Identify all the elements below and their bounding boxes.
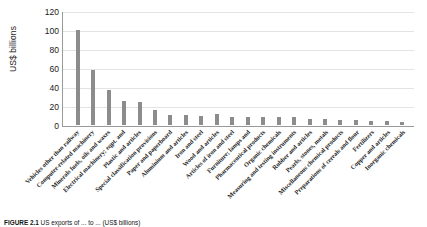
bar-slot [379, 12, 394, 125]
bar-slot [101, 12, 116, 125]
bar-slot [116, 12, 131, 125]
bar [199, 116, 203, 125]
bar-slot [286, 12, 301, 125]
figure-caption-text: US exports of ... to ... (US$ billions) [41, 219, 141, 226]
bar-slot [147, 12, 162, 125]
bar-slot [163, 12, 178, 125]
bar [230, 117, 234, 125]
y-axis-title: US$ billions [8, 26, 22, 72]
bar-slot [348, 12, 363, 125]
bar [153, 110, 157, 125]
bar-slot [395, 12, 410, 125]
bar [76, 30, 80, 125]
figure-chart: US$ billions 020406080100120 Vehicles ot… [0, 0, 427, 227]
bar [400, 122, 404, 125]
bar [308, 119, 312, 125]
bar-slot [225, 12, 240, 125]
bar [138, 102, 142, 125]
y-axis-tick-label: 80 [50, 46, 59, 55]
figure-caption-label: FIGURE 2.1 [4, 219, 39, 226]
bar-slot [271, 12, 286, 125]
bar [385, 121, 389, 125]
bar-slot [194, 12, 209, 125]
y-axis-tick-label: 60 [50, 65, 59, 74]
y-axis-tick-label: 40 [50, 84, 59, 93]
bar [91, 70, 95, 125]
bar-slot [333, 12, 348, 125]
bar [184, 115, 188, 125]
plot-frame: 020406080100120 [62, 12, 414, 127]
bar [323, 119, 327, 125]
y-axis-tick-label: 20 [50, 103, 59, 112]
bar-slot [364, 12, 379, 125]
bar-slot [317, 12, 332, 125]
bar [261, 117, 265, 125]
bar-slot [255, 12, 270, 125]
bar [122, 101, 126, 125]
bar-slot [85, 12, 100, 125]
bar-slot [240, 12, 255, 125]
plot-area: 020406080100120 [62, 12, 414, 127]
bar-slot [70, 12, 85, 125]
bar [292, 117, 296, 125]
y-axis-tick-label: 100 [45, 27, 59, 36]
bar-slot [178, 12, 193, 125]
bar [369, 121, 373, 125]
bar [246, 117, 250, 125]
x-axis-labels: Vehicles other than railwayComputer-rela… [62, 127, 414, 215]
bar [277, 117, 281, 125]
bar-slot [302, 12, 317, 125]
bar [215, 114, 219, 125]
figure-caption: FIGURE 2.1 US exports of ... to ... (US$… [4, 219, 423, 227]
bar [338, 120, 342, 125]
bar-series [64, 12, 414, 125]
y-axis-tick-label: 120 [45, 8, 59, 17]
bar-slot [132, 12, 147, 125]
bar [107, 90, 111, 125]
y-axis-tick-label: 0 [54, 122, 59, 131]
bar [354, 120, 358, 125]
bar [168, 115, 172, 125]
bar-slot [209, 12, 224, 125]
